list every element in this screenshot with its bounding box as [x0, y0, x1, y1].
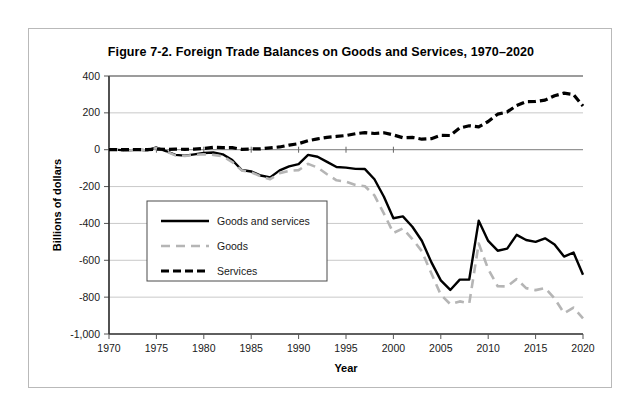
y-tick-label: 0	[94, 143, 100, 155]
x-tick-label: 1980	[192, 342, 216, 354]
x-tick-label: 1990	[287, 342, 311, 354]
x-tick-label: 2000	[382, 342, 406, 354]
y-tick-label: -800	[79, 291, 100, 303]
x-tick-label: 1970	[97, 342, 121, 354]
legend-label-2: Services	[217, 265, 257, 277]
x-axis-title: Year	[334, 362, 358, 374]
x-tick-label: 2015	[524, 342, 548, 354]
x-tick-label: 2020	[571, 342, 595, 354]
chart-legend: Goods and servicesGoodsServices	[147, 201, 327, 281]
y-tick-label: -200	[79, 180, 100, 192]
y-tick-label: 400	[82, 70, 100, 82]
y-tick-label: -600	[79, 254, 100, 266]
x-tick-label: 2010	[477, 342, 501, 354]
figure-container: Figure 7-2. Foreign Trade Balances on Go…	[28, 28, 612, 388]
y-tick-label: -400	[79, 217, 100, 229]
series-line-2	[109, 93, 583, 150]
x-tick-label: 2005	[429, 342, 453, 354]
trade-balance-line-chart: 4002000-200-400-600-800-1,00019701975198…	[29, 29, 613, 389]
legend-label-0: Goods and services	[217, 215, 310, 227]
x-tick-label: 1975	[145, 342, 169, 354]
legend-label-1: Goods	[217, 240, 248, 252]
y-axis-title: Billions of dollars	[51, 159, 63, 251]
y-tick-label: 200	[82, 106, 100, 118]
y-tick-label: -1,000	[70, 328, 100, 340]
x-tick-label: 1995	[334, 342, 358, 354]
x-tick-label: 1985	[240, 342, 264, 354]
